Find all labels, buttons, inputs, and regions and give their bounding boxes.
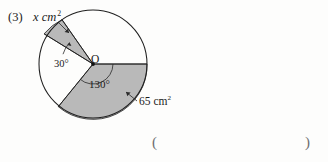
circle-sector-figure [0,0,328,162]
known-area-value: 65 cm [139,95,167,107]
known-area-label: 65 cm2 [139,96,171,108]
angle-30-label: 30° [54,59,69,70]
unknown-area-exponent: 2 [57,9,61,18]
worksheet-page: (3) x cm2 30° O 130° 65 cm2 ( ) [0,0,328,162]
answer-blank-close-paren: ) [305,135,310,150]
known-area-exponent: 2 [167,94,171,102]
unknown-area-label: x cm2 [33,11,61,24]
problem-number-label: (3) [8,11,23,24]
angle-130-label: 130° [89,79,110,90]
unknown-area-value: x cm [33,10,57,24]
center-point-label: O [91,54,99,66]
answer-blank-open-paren: ( [152,135,157,150]
sector-130-degrees [58,64,147,119]
